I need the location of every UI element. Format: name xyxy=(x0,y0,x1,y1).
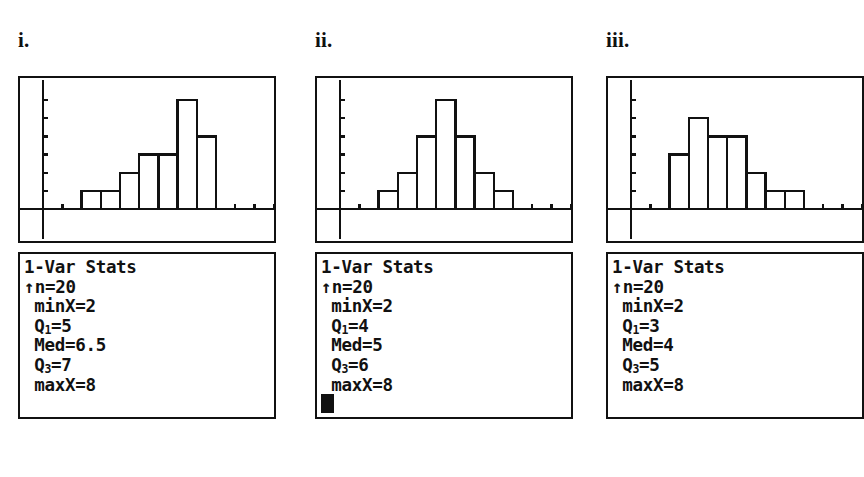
cropped-header-text xyxy=(0,0,790,8)
stats-line: maxX=8 xyxy=(24,376,274,396)
stats-line: ↑n=20 xyxy=(24,278,274,298)
histogram-bar xyxy=(158,155,177,209)
histogram-screen-iii xyxy=(606,76,864,243)
stats-text-ii: 1-Var Stats↑n=20 minX=2 Q1=4 Med=5 Q3=6 … xyxy=(317,254,571,417)
stats-subscript: 3 xyxy=(341,362,348,376)
histogram-bar xyxy=(436,100,455,209)
histogram-bar xyxy=(746,173,765,209)
panel-label-iii: iii. xyxy=(606,30,864,54)
stats-line: Q1=4 xyxy=(321,317,571,337)
histogram-plot-ii xyxy=(317,78,571,241)
stats-text-iii: 1-Var Stats↑n=20 minX=2 Q1=3 Med=4 Q3=5 … xyxy=(608,254,862,417)
stats-line: Med=4 xyxy=(612,336,862,356)
histogram-bar xyxy=(455,136,474,209)
panel-ii: ii. 1-Var Stats↑n=20 minX=2 Q1=4 Med=5 Q… xyxy=(315,30,573,419)
scroll-up-arrow-icon: ↑ xyxy=(612,278,623,298)
panel-label-i: i. xyxy=(18,30,276,54)
stats-subscript: 3 xyxy=(632,362,639,376)
stats-line: minX=2 xyxy=(24,297,274,317)
histogram-bar xyxy=(379,191,398,209)
histogram-bar xyxy=(766,191,785,209)
scroll-up-arrow-icon: ↑ xyxy=(24,278,35,298)
stats-text-i: 1-Var Stats↑n=20 minX=2 Q1=5 Med=6.5 Q3=… xyxy=(20,254,274,417)
stats-line: Q3=7 xyxy=(24,356,274,376)
stats-line: Med=6.5 xyxy=(24,336,274,356)
histogram-bar xyxy=(197,136,216,209)
stats-line: Q3=6 xyxy=(321,356,571,376)
stats-line: minX=2 xyxy=(612,297,862,317)
histogram-screen-ii xyxy=(315,76,573,243)
histogram-bar xyxy=(475,173,494,209)
histogram-bar xyxy=(708,136,727,209)
histogram-bar xyxy=(120,173,139,209)
histogram-bars xyxy=(670,118,804,209)
stats-line: Med=5 xyxy=(321,336,571,356)
histogram-bars xyxy=(379,100,513,209)
panel-label-ii: ii. xyxy=(315,30,573,54)
histogram-bars xyxy=(82,100,216,209)
stats-title: 1-Var Stats xyxy=(612,258,862,278)
text-cursor xyxy=(321,394,334,413)
histogram-bar xyxy=(785,191,804,209)
histogram-bar xyxy=(494,191,513,209)
stats-line: maxX=8 xyxy=(321,376,571,396)
histogram-plot-i xyxy=(20,78,274,241)
stats-line: ↑n=20 xyxy=(612,278,862,298)
stats-line: Q3=5 xyxy=(612,356,862,376)
panel-i: i. 1-Var Stats↑n=20 minX=2 Q1=5 Med=6.5 … xyxy=(18,30,276,419)
stats-screen-i: 1-Var Stats↑n=20 minX=2 Q1=5 Med=6.5 Q3=… xyxy=(18,252,276,419)
scroll-up-arrow-icon: ↑ xyxy=(321,278,332,298)
histogram-bar xyxy=(689,118,708,209)
stats-screen-ii: 1-Var Stats↑n=20 minX=2 Q1=4 Med=5 Q3=6 … xyxy=(315,252,573,419)
stats-line: minX=2 xyxy=(321,297,571,317)
histogram-bar xyxy=(670,155,689,209)
histogram-bar xyxy=(139,155,158,209)
histogram-bar xyxy=(727,136,746,209)
stats-screen-iii: 1-Var Stats↑n=20 minX=2 Q1=3 Med=4 Q3=5 … xyxy=(606,252,864,419)
stats-line: maxX=8 xyxy=(612,376,862,396)
histogram-bar xyxy=(417,136,436,209)
histogram-bar xyxy=(398,173,417,209)
stats-subscript: 3 xyxy=(44,362,51,376)
histogram-bar xyxy=(101,191,120,209)
stats-title: 1-Var Stats xyxy=(321,258,571,278)
histogram-plot-iii xyxy=(608,78,862,241)
histogram-bar xyxy=(178,100,197,209)
histogram-screen-i xyxy=(18,76,276,243)
stats-title: 1-Var Stats xyxy=(24,258,274,278)
histogram-bar xyxy=(82,191,101,209)
panel-iii: iii. 1-Var Stats↑n=20 minX=2 Q1=3 Med=4 … xyxy=(606,30,864,419)
stats-line: Q1=5 xyxy=(24,317,274,337)
stats-line: Q1=3 xyxy=(612,317,862,337)
stats-line: ↑n=20 xyxy=(321,278,571,298)
